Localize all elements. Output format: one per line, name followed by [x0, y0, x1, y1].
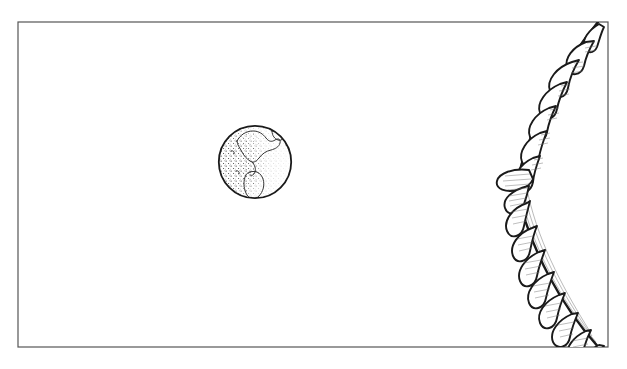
illustration-canvas: Earth and the Sun's limb Hand-drawn blac… — [0, 0, 627, 369]
line-drawing — [0, 0, 627, 369]
